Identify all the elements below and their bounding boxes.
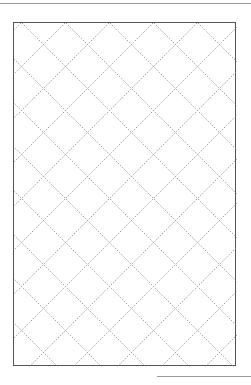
header-rule	[0, 3, 251, 4]
diamond-lattice-pattern	[14, 23, 237, 367]
footer-rule	[157, 376, 251, 377]
lattice-frame	[13, 22, 236, 366]
